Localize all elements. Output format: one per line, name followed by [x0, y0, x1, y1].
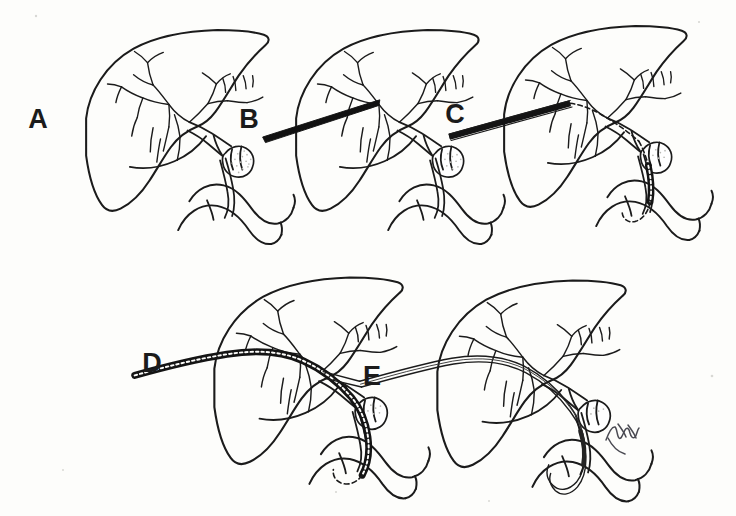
- figure-plate: A B: [0, 0, 736, 516]
- biliary-duodenum-B: [388, 122, 505, 244]
- illustration-canvas: A B: [0, 0, 736, 516]
- stent-wall-lower-E: [362, 362, 586, 494]
- panel-E: E: [323, 280, 653, 501]
- biliary-duodenum-A: [178, 122, 295, 244]
- panel-label-B: B: [239, 104, 259, 134]
- percutaneous-needle-B: [263, 104, 371, 143]
- panel-label-A: A: [28, 104, 48, 134]
- stent-stricture-segment-E: [580, 431, 584, 465]
- liver-outline-E: [437, 280, 625, 467]
- biliary-duodenum-C: [596, 118, 713, 240]
- needle-tip-B: [368, 100, 380, 108]
- needle-sheath-wall-top-C: [449, 100, 570, 133]
- panel-C-anatomy: [449, 26, 713, 240]
- panel-D-anatomy: [135, 277, 430, 498]
- panel-label-E: E: [363, 361, 381, 391]
- panel-D: D: [135, 277, 430, 498]
- catheter-shaft-D: [135, 352, 369, 475]
- panel-C: C: [445, 26, 713, 240]
- panel-label-D: D: [142, 348, 162, 378]
- stent-wall-upper-E: [360, 356, 585, 489]
- guidewire-intrahepatic-C: [570, 103, 639, 141]
- panel-label-C: C: [445, 99, 465, 129]
- panel-A: A: [28, 30, 295, 244]
- artist-signature: [606, 424, 639, 454]
- catheter-markers-D: [135, 352, 369, 475]
- panel-B-anatomy: [263, 30, 505, 244]
- needle-sheath-wall-bottom-C: [451, 107, 572, 140]
